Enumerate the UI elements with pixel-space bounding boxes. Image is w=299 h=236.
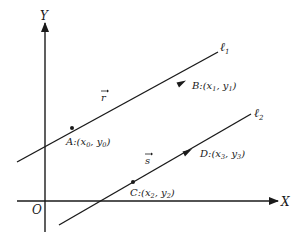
point-b-arrowhead [177, 81, 187, 88]
line-l1 [17, 52, 218, 162]
svg-text:r: r [101, 92, 107, 103]
point-a-dot [70, 126, 74, 130]
line-l1-label: ℓ1 [220, 40, 229, 56]
diagram-canvas: Y X O ℓ1 A:(x0, y0) B:(x1, y1) r ℓ2 C:(x… [0, 0, 299, 236]
vector-s-label: s [145, 153, 153, 167]
point-a-label: A:(x0, y0) [65, 136, 110, 149]
point-d-label: D:(x3, y3) [199, 148, 245, 161]
point-b-label: B:(x1, y1) [191, 80, 237, 93]
y-axis-label: Y [40, 9, 49, 23]
point-c-dot [131, 180, 135, 184]
svg-text:s: s [145, 155, 150, 166]
origin-label: O [32, 203, 42, 217]
line-l2 [59, 114, 251, 225]
x-axis-label: X [280, 195, 290, 209]
vector-r-label: r [101, 90, 109, 104]
line-l2-label: ℓ2 [254, 106, 264, 122]
point-c-label: C:(x2, y2) [130, 187, 175, 200]
